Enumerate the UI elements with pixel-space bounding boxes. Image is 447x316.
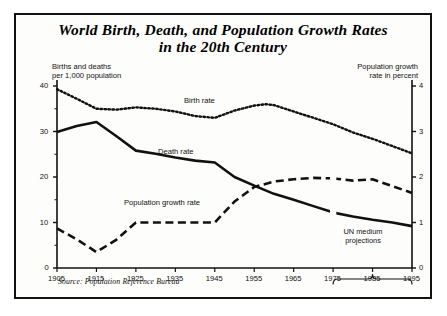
y-tick-label: 10 (40, 218, 48, 227)
series-label-death-rate: Death rate (158, 147, 193, 156)
series-label-birth-rate: Birth rate (184, 96, 215, 105)
y2-tick-label: 1 (419, 218, 423, 227)
series-line-population-growth-rate-projection (333, 178, 412, 193)
y2-tick-label: 4 (419, 81, 423, 90)
x-tick-label: 1925 (127, 274, 144, 283)
y2-tick-label: 0 (419, 263, 423, 272)
x-tick-label: 1995 (403, 274, 420, 283)
x-tick-label: 1965 (285, 274, 302, 283)
series-line-death-rate-projection (333, 212, 412, 226)
y-tick-label: 40 (40, 81, 48, 90)
x-tick-label: 1905 (48, 274, 65, 283)
x-tick-label: 1985 (364, 274, 381, 283)
source-note: Source: Population Reference Bureau (58, 277, 180, 286)
series-line-birth-rate (57, 89, 412, 153)
series-line-population-growth-rate-historic (57, 178, 333, 252)
x-tick-label: 1955 (245, 274, 262, 283)
x-tick-label: 1935 (166, 274, 183, 283)
y-tick-label: 20 (40, 172, 48, 181)
chart-plot-area (16, 15, 434, 301)
y-tick-label: 0 (44, 263, 48, 272)
series-label-population-growth-rate: Population growth rate (124, 198, 200, 207)
x-tick-label: 1975 (324, 274, 341, 283)
y-tick-label: 30 (40, 127, 48, 136)
x-tick-label: 1945 (206, 274, 223, 283)
chart-figure: World Birth, Death, and Population Growt… (14, 13, 432, 299)
x-tick-label: 1915 (87, 274, 104, 283)
y2-tick-label: 2 (419, 172, 423, 181)
y2-tick-label: 3 (419, 127, 423, 136)
un-projections-note: UN medium projections (320, 227, 406, 245)
